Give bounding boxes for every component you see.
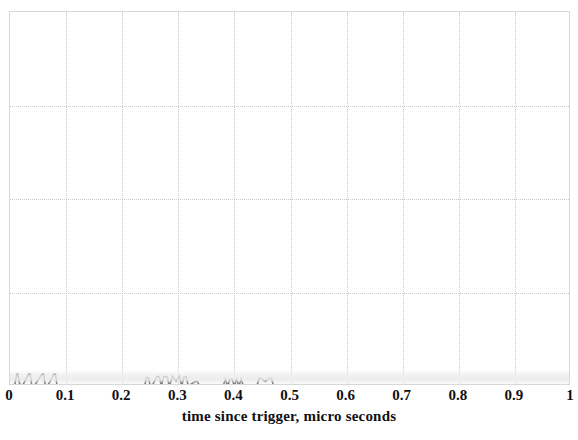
x-tick-label-2: 0.2 <box>112 386 131 404</box>
baseline-noise-band <box>10 370 569 384</box>
x-tick-label-7: 0.7 <box>392 386 411 404</box>
x-tick-label-8: 0.8 <box>448 386 467 404</box>
x-tick-label-9: 0.9 <box>505 386 524 404</box>
x-tick-label-10: 1 <box>566 386 574 404</box>
x-tick-label-4: 0.4 <box>224 386 243 404</box>
x-tick-label-5: 0.5 <box>280 386 299 404</box>
x-tick-label-6: 0.6 <box>336 386 355 404</box>
x-axis-title: time since trigger, micro seconds <box>0 408 578 425</box>
plot-area <box>9 11 570 385</box>
x-tick-label-3: 0.3 <box>168 386 187 404</box>
chart-figure: 00.10.20.30.40.50.60.70.80.91 time since… <box>0 0 578 440</box>
signal-trace <box>10 12 570 385</box>
x-tick-label-1: 0.1 <box>56 386 75 404</box>
x-tick-label-0: 0 <box>5 386 13 404</box>
x-axis-ticks: 00.10.20.30.40.50.60.70.80.91 <box>9 386 570 408</box>
